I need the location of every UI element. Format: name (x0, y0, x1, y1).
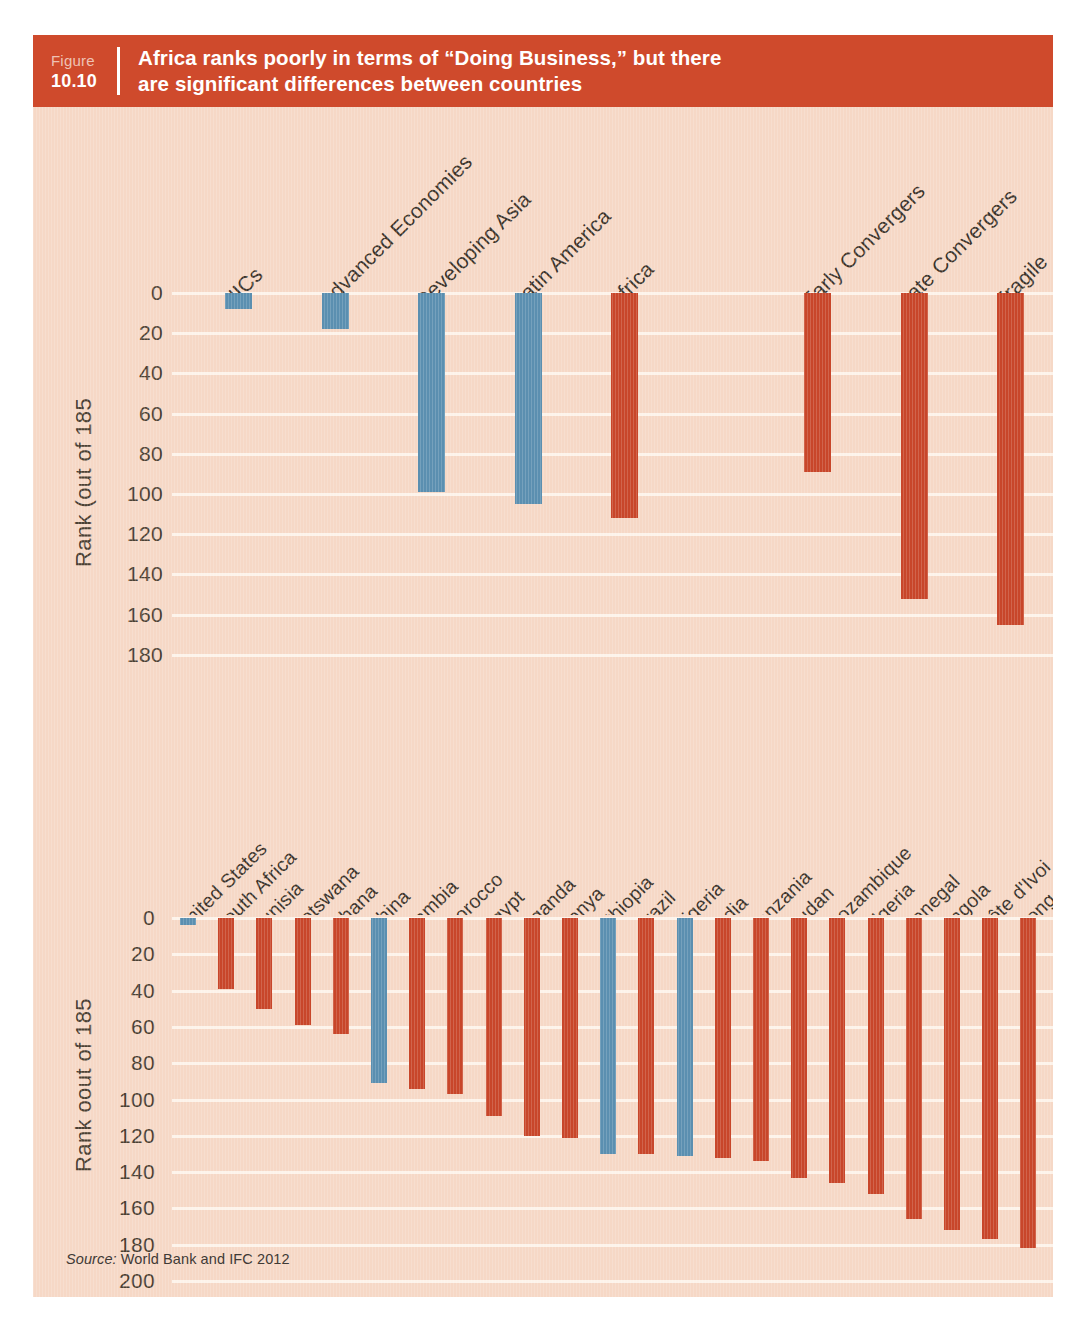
category-label: Fragile (989, 250, 1052, 293)
y-tick-label: 0 (151, 281, 163, 305)
bar (982, 918, 998, 1239)
y-tick-label: 140 (127, 562, 163, 586)
bar (409, 918, 425, 1089)
figure-title-line-1: Africa ranks poorly in terms of “Doing B… (138, 45, 1053, 71)
y-tick-label: 60 (131, 1015, 155, 1039)
bar (333, 918, 349, 1034)
y-tick-label: 20 (139, 321, 163, 345)
bar (256, 918, 272, 1009)
figure-title-line-2: are significant differences between coun… (138, 71, 1053, 97)
y-tick-label: 140 (119, 1160, 155, 1184)
bar (804, 293, 831, 472)
figure-title: Africa ranks poorly in terms of “Doing B… (120, 35, 1053, 107)
y-tick-label: 120 (119, 1124, 155, 1148)
category-label: Africa (603, 257, 659, 293)
y-tick-label: 40 (131, 979, 155, 1003)
chart-top: Rank (out of 185 02040608010012014016018… (33, 107, 1053, 687)
bar (791, 918, 807, 1178)
bar (829, 918, 845, 1183)
bar (677, 918, 693, 1156)
y-tick-label: 100 (119, 1088, 155, 1112)
gridline (172, 1280, 1053, 1283)
source-text: World Bank and IFC 2012 (117, 1251, 290, 1267)
bar (611, 293, 638, 518)
y-tick-label: 80 (139, 442, 163, 466)
gridline (172, 614, 1053, 617)
category-label: Early Convergers (796, 179, 930, 293)
y-tick-label: 0 (143, 906, 155, 930)
bar (295, 918, 311, 1025)
bar (901, 293, 928, 599)
category-label: Latin America (507, 204, 616, 293)
bar (524, 918, 540, 1136)
bar (1020, 918, 1036, 1248)
chart-bottom-y-ticks: 020406080100120140160180200 (75, 687, 155, 1297)
bar (180, 918, 196, 925)
chart-top-category-labels: NICsAdvanced EconomiesDeveloping AsiaLat… (172, 107, 1053, 293)
y-tick-label: 120 (127, 522, 163, 546)
y-tick-label: 100 (127, 482, 163, 506)
figure-header-band: Figure 10.10 Africa ranks poorly in term… (33, 35, 1053, 107)
bar (486, 918, 502, 1116)
figure-number-block: Figure 10.10 (33, 35, 117, 107)
y-tick-label: 40 (139, 361, 163, 385)
chart-bottom: Rank oout of 185 02040608010012014016018… (33, 687, 1053, 1297)
y-tick-label: 80 (131, 1051, 155, 1075)
bar (225, 293, 252, 309)
bar (753, 918, 769, 1161)
gridline (172, 654, 1053, 657)
bar (638, 918, 654, 1154)
bar (906, 918, 922, 1219)
chart-top-y-ticks: 020406080100120140160180 (83, 107, 163, 687)
bar (600, 918, 616, 1154)
y-tick-label: 180 (127, 643, 163, 667)
bar (944, 918, 960, 1230)
bar (371, 918, 387, 1083)
figure-number: 10.10 (51, 70, 97, 92)
category-label: NICs (217, 262, 268, 293)
figure-page: Figure 10.10 Africa ranks poorly in term… (0, 0, 1087, 1336)
chart-bottom-category-labels: United StatesSouth AfricaTunisiaBotswana… (163, 687, 1053, 915)
y-tick-label: 20 (131, 942, 155, 966)
bar (218, 918, 234, 989)
bar (515, 293, 542, 504)
source-prefix: Source: (66, 1251, 117, 1267)
bar (868, 918, 884, 1194)
figure-label: Figure (51, 51, 95, 70)
bar (322, 293, 349, 329)
y-tick-label: 160 (119, 1196, 155, 1220)
bar (562, 918, 578, 1138)
bar (715, 918, 731, 1158)
bar (997, 293, 1024, 625)
y-tick-label: 200 (119, 1269, 155, 1293)
y-tick-label: 60 (139, 402, 163, 426)
source-note: Source: World Bank and IFC 2012 (66, 1251, 290, 1267)
bar (418, 293, 445, 492)
gridline (172, 1244, 1053, 1247)
bar (447, 918, 463, 1094)
y-tick-label: 160 (127, 603, 163, 627)
figure-body-panel: Rank (out of 185 02040608010012014016018… (33, 107, 1053, 1297)
